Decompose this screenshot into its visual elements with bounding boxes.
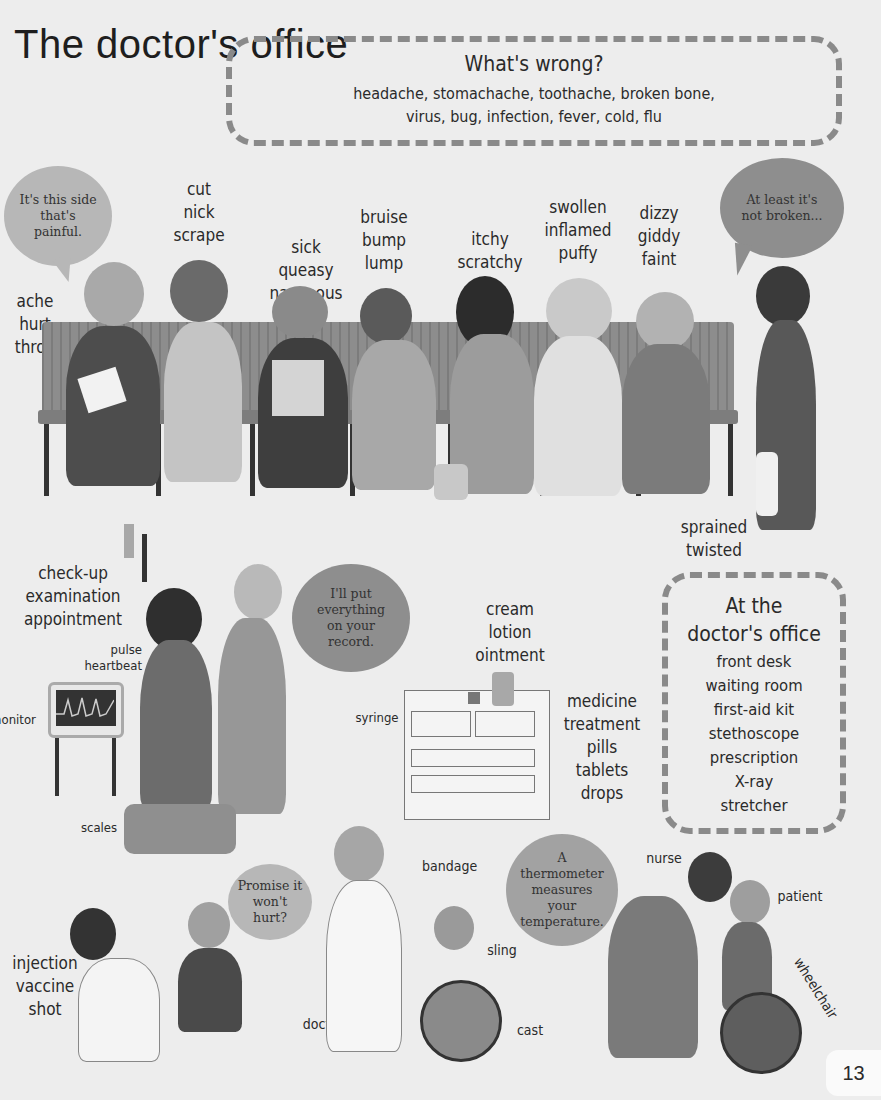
word: sick [268,236,344,259]
wheelchair-wheel-icon [720,992,802,1074]
syringe-label: syringe [352,710,402,726]
child-head [188,902,230,948]
leg-cast-icon [756,452,778,516]
speech-bubble-promise: Promise it won't hurt? [228,864,312,940]
word: drops [560,782,644,805]
patient-body-ache [66,326,160,486]
wheelchair-child-head [434,906,474,950]
word: scrape [164,224,234,247]
nurse-injection-head [70,908,116,960]
monitor-stand [55,738,59,796]
word: lump [352,252,416,275]
bench-leg [728,424,733,496]
height-measure-pole [142,534,147,582]
word-group-cream: cream lotion ointment [470,598,550,667]
speech-bubble-text: Promise it won't hurt? [235,878,305,926]
word: medicine [560,690,644,713]
word: inflamed [540,219,616,242]
word: scratchy [450,251,530,274]
medicine-cabinet-icon [404,690,550,820]
patient-label: patient [772,888,828,904]
patient-head-sick [272,286,328,338]
whats-wrong-line-1: headache, stomachache, toothache, broken… [232,82,836,105]
speech-bubble-text: I'll put everything on your record. [308,586,394,650]
patient-head-swollen [546,278,612,344]
page-number: 13 [826,1050,881,1096]
doctor-head [334,826,384,882]
at-office-item: stethoscope [668,722,840,746]
cabinet-drawer [411,749,535,767]
nurse-label: nurse [644,850,684,866]
scales-label: scales [76,820,122,836]
nurse-injection-body [78,958,160,1062]
word: bruise [352,206,416,229]
doctor-body [326,880,402,1052]
at-office-item: prescription [668,746,840,770]
patient-head-bruise [360,288,412,344]
speech-bubble-tail [729,243,752,278]
sling-label: sling [484,942,520,958]
speech-bubble-text: It's this side that's painful. [18,192,98,240]
word: pills [560,736,644,759]
speech-bubble-text: At least it's not broken... [737,192,827,224]
word-group-medicine: medicine treatment pills tablets drops [560,690,644,805]
word-group-cut: cut nick scrape [164,178,234,247]
heart-monitor-icon [48,682,124,738]
word: twisted [674,539,754,562]
word: injection [10,952,80,975]
monitor-stand [112,738,116,796]
child-body [178,948,242,1032]
word-group-bruise: bruise bump lump [352,206,416,275]
word-group-dizzy: dizzy giddy faint [630,202,688,271]
male-nurse-body [608,896,698,1058]
weighing-scales-icon [124,804,236,854]
handbag-icon [434,464,468,500]
word: shot [10,998,80,1021]
word: treatment [560,713,644,736]
word-group-injection: injection vaccine shot [10,952,80,1021]
whats-wrong-heading: What's wrong? [232,52,836,76]
word-group-checkup: check-up examination appointment [18,562,128,631]
height-measure-icon [124,524,134,558]
patient-body-dizzy [622,344,710,494]
cabinet-drawer [411,775,535,793]
word: lotion [470,621,550,644]
nurse-head [234,564,282,620]
male-nurse-head [688,852,732,902]
word-group-pulse: pulse heartbeat [78,642,142,674]
word-group-sprained: sprained twisted [674,516,754,562]
word-group-swollen: swollen inflamed puffy [540,196,616,265]
whats-wrong-line-2: virus, bug, infection, fever, cold, flu [232,105,836,128]
patient-body-checkup [140,640,212,810]
patient-body-cut [164,322,242,482]
word: vaccine [10,975,80,998]
word: puffy [540,242,616,265]
heartbeat-icon [56,690,114,726]
at-office-item: front desk [668,650,840,674]
cabinet-drawer [411,711,471,737]
patient-head-ache [84,262,144,326]
word: sprained [674,516,754,539]
at-the-office-box: At the doctor's office front desk waitin… [662,572,846,834]
word: bump [352,229,416,252]
whats-wrong-box: What's wrong? headache, stomachache, too… [226,36,842,146]
word: faint [630,248,688,271]
patient-head-dizzy [636,292,694,350]
bucket-icon [272,360,324,416]
word: dizzy [630,202,688,225]
word: ache [10,290,60,313]
word: cream [470,598,550,621]
word: ointment [470,644,550,667]
word: nick [164,201,234,224]
word: examination [18,585,128,608]
speech-bubble-painful: It's this side that's painful. [4,166,112,266]
word: swollen [540,196,616,219]
patient-head-cut [170,260,228,322]
bandage-label: bandage [422,858,476,874]
word: check-up [18,562,128,585]
wheelchair-patient-head [730,880,770,924]
at-office-item: first-aid kit [668,698,840,722]
at-office-heading-2: doctor's office [668,622,840,646]
word: cut [164,178,234,201]
word: itchy [450,228,530,251]
